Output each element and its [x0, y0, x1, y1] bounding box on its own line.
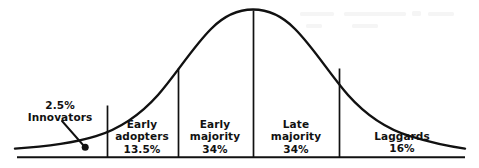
early-adopters-line2: adopters: [102, 130, 182, 142]
innovators-leader-dot: [82, 144, 89, 151]
scan-artifacts: [300, 11, 454, 28]
segment-label-early-majority: Early majority 34%: [175, 118, 255, 155]
laggards-percent: 16%: [362, 142, 442, 154]
early-adopters-line1: Early: [102, 118, 182, 130]
late-majority-line1: Late: [256, 118, 336, 130]
innovators-name: Innovators: [20, 111, 100, 123]
segment-label-early-adopters: Early adopters 13.5%: [102, 118, 182, 155]
segment-label-late-majority: Late majority 34%: [256, 118, 336, 155]
early-majority-line1: Early: [175, 118, 255, 130]
late-majority-percent: 34%: [256, 143, 336, 155]
early-adopters-percent: 13.5%: [102, 143, 182, 155]
laggards-line1: Laggards: [362, 130, 442, 142]
innovators-percent: 2.5%: [20, 99, 100, 111]
segment-label-laggards: Laggards 16%: [362, 130, 442, 155]
late-majority-line2: majority: [256, 130, 336, 142]
adoption-curve-figure: 2.5% Innovators Early adopters 13.5% Ear…: [0, 0, 479, 168]
innovators-callout-label: 2.5% Innovators: [20, 99, 100, 124]
early-majority-line2: majority: [175, 130, 255, 142]
early-majority-percent: 34%: [175, 143, 255, 155]
